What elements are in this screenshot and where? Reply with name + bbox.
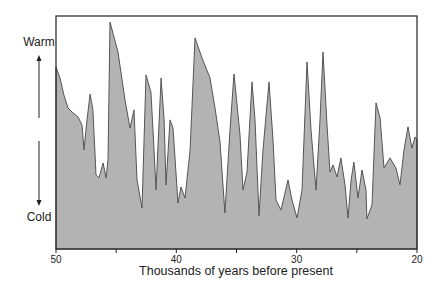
- x-axis: 50403020: [50, 249, 423, 265]
- x-tick-label: 50: [50, 254, 62, 265]
- y-annotation: Warm Cold: [23, 35, 55, 224]
- x-axis-label: Thousands of years before present: [139, 264, 333, 278]
- warm-label: Warm: [23, 35, 55, 49]
- plot-area: [56, 16, 417, 249]
- climate-chart: 50403020 Thousands of years before prese…: [0, 0, 443, 290]
- up-arrowhead-icon: [37, 55, 42, 61]
- down-arrowhead-icon: [37, 200, 42, 206]
- cold-label: Cold: [27, 210, 52, 224]
- temperature-area: [56, 22, 417, 249]
- x-tick-label: 20: [411, 254, 423, 265]
